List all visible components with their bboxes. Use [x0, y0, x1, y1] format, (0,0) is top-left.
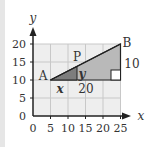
y-tick-label: 5 — [19, 92, 26, 105]
x-tick-label: 0 — [30, 122, 37, 135]
y-segment-label: y — [78, 67, 87, 81]
x-tick-label: 20 — [96, 122, 110, 135]
y-axis-arrow-icon — [30, 27, 37, 36]
x-tick-label: 10 — [61, 122, 75, 135]
y-tick-label: 20 — [12, 38, 26, 51]
point-b-label: B — [123, 36, 132, 50]
coordinate-diagram: y x 20 15 10 5 0 0 5 10 15 20 25 A B P y… — [0, 0, 151, 147]
y-tick-label: 15 — [12, 56, 26, 69]
x-segment-label: x — [55, 82, 64, 96]
point-p-label: P — [73, 50, 81, 64]
y-tick-label: 0 — [19, 110, 26, 123]
x-tick-label: 15 — [79, 122, 93, 135]
point-a-label: A — [38, 69, 48, 83]
y-tick-label: 10 — [12, 74, 26, 87]
y-axis-label: y — [29, 11, 37, 25]
x-axis-label: x — [138, 109, 145, 123]
right-angle-marker — [111, 70, 121, 80]
x-tick-label: 25 — [114, 122, 128, 135]
height-length-label: 10 — [124, 57, 139, 71]
x-axis-arrow-icon — [122, 113, 131, 120]
x-tick-label: 5 — [47, 122, 54, 135]
base-length-label: 20 — [78, 82, 93, 96]
